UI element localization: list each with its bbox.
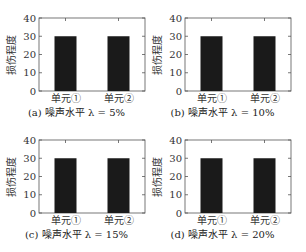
y-tick-label: 10: [23, 67, 36, 78]
chart-panel-c: 010203040损伤程度单元①单元② (c) 噪声水平 λ = 15%: [0, 122, 153, 248]
chart-panel-d: 010203040损伤程度单元①单元② (d) 噪声水平 λ = 20%: [146, 122, 299, 248]
y-axis-label: 损伤程度: [151, 157, 163, 197]
y-tick-label: 0: [176, 86, 182, 97]
bar: [108, 158, 130, 213]
chart-caption-a: (a) 噪声水平 λ = 5%: [0, 104, 153, 119]
bar: [201, 36, 223, 91]
chart-caption-b: (b) 噪声水平 λ = 10%: [146, 104, 299, 119]
y-tick-label: 40: [23, 13, 36, 24]
x-tick-label: 单元②: [104, 93, 134, 104]
x-tick-label: 单元②: [104, 215, 134, 226]
y-tick-label: 30: [23, 153, 36, 164]
chart-caption-c: (c) 噪声水平 λ = 15%: [0, 226, 153, 241]
bar: [254, 158, 276, 213]
x-tick-label: 单元②: [250, 93, 280, 104]
y-tick-label: 30: [169, 153, 182, 164]
y-axis-label: 损伤程度: [151, 35, 163, 75]
y-tick-label: 0: [30, 208, 36, 219]
bar: [201, 158, 223, 213]
bar: [108, 36, 130, 91]
bar: [55, 158, 77, 213]
y-tick-label: 40: [169, 135, 182, 146]
y-tick-label: 10: [169, 67, 182, 78]
x-tick-label: 单元①: [197, 93, 227, 104]
x-tick-label: 单元①: [51, 215, 81, 226]
y-tick-label: 30: [23, 31, 36, 42]
x-tick-label: 单元②: [250, 215, 280, 226]
x-tick-label: 单元①: [51, 93, 81, 104]
y-tick-label: 20: [169, 49, 182, 60]
y-tick-label: 0: [30, 86, 36, 97]
y-tick-label: 30: [169, 31, 182, 42]
y-tick-label: 20: [169, 171, 182, 182]
y-tick-label: 20: [23, 171, 36, 182]
y-tick-label: 10: [169, 189, 182, 200]
bar: [254, 36, 276, 91]
y-axis-label: 损伤程度: [5, 157, 17, 197]
y-tick-label: 40: [169, 13, 182, 24]
chart-caption-d: (d) 噪声水平 λ = 20%: [146, 226, 299, 241]
y-tick-label: 40: [23, 135, 36, 146]
y-axis-label: 损伤程度: [5, 35, 17, 75]
y-tick-label: 0: [176, 208, 182, 219]
bar: [55, 36, 77, 91]
chart-panel-b: 010203040损伤程度单元①单元② (b) 噪声水平 λ = 10%: [146, 0, 299, 126]
y-tick-label: 10: [23, 189, 36, 200]
x-tick-label: 单元①: [197, 215, 227, 226]
y-tick-label: 20: [23, 49, 36, 60]
chart-panel-a: 010203040损伤程度单元①单元② (a) 噪声水平 λ = 5%: [0, 0, 153, 126]
